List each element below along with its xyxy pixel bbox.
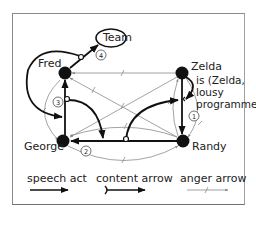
zelda-node xyxy=(176,67,189,80)
step-3-label: 3 xyxy=(56,99,60,107)
legend-content-hook xyxy=(105,186,107,194)
team-label: Team xyxy=(103,32,132,44)
anger-arrow-fred-george xyxy=(44,80,60,140)
content-arrow-3-to-2 xyxy=(68,100,103,138)
randy-label: Randy xyxy=(192,141,227,153)
randy-node xyxy=(177,135,190,148)
step-2-label: 2 xyxy=(84,148,88,156)
step-4-label: 4 xyxy=(99,52,103,60)
anger-arrow-randy-george-upper xyxy=(70,127,177,137)
zelda-label: Zelda xyxy=(191,61,222,73)
step-1-label: 1 xyxy=(192,113,196,121)
anger-arrow-randy-zelda xyxy=(173,79,178,136)
zelda-note-line3: programmer) xyxy=(196,98,256,110)
fred-label: Fred xyxy=(38,58,62,70)
legend-speech-act: speech act xyxy=(27,173,87,185)
legend-anger-arrow: anger arrow xyxy=(180,173,247,185)
zelda-note-line1: is (Zelda, xyxy=(196,74,245,86)
legend-content-arrow: content arrow xyxy=(96,173,173,185)
legend-graphics xyxy=(30,186,228,194)
zelda-note-line2: lousy xyxy=(196,86,224,98)
george-label: George xyxy=(24,141,64,153)
